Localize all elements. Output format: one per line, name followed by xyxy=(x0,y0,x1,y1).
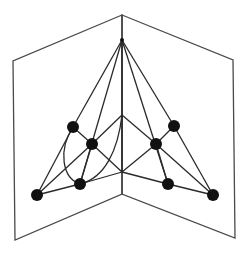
book-frame xyxy=(13,15,235,240)
node-left-inner xyxy=(86,138,98,150)
node-right-inner xyxy=(150,138,162,150)
node-right-far xyxy=(207,189,219,201)
node-left-bottom xyxy=(74,178,86,190)
node-left-outer xyxy=(67,121,79,133)
open-book-graph-diagram xyxy=(0,0,250,253)
graph-edges xyxy=(37,40,213,195)
curve-left-outer-left-bottom xyxy=(64,127,80,184)
edge-apex-right-outer xyxy=(122,40,174,126)
edge-right-far-right-outer xyxy=(174,126,213,195)
node-right-bottom xyxy=(162,178,174,190)
node-right-outer xyxy=(168,120,180,132)
edge-apex-left-outer xyxy=(73,40,122,127)
edge-right-bottom-spine-mid-lower xyxy=(122,172,168,184)
node-apex xyxy=(120,38,124,42)
graph-nodes xyxy=(31,38,219,201)
edge-left-inner-spine-mid-lower xyxy=(92,144,122,172)
edge-right-inner-spine-mid-lower xyxy=(122,144,156,172)
node-left-far xyxy=(31,189,43,201)
